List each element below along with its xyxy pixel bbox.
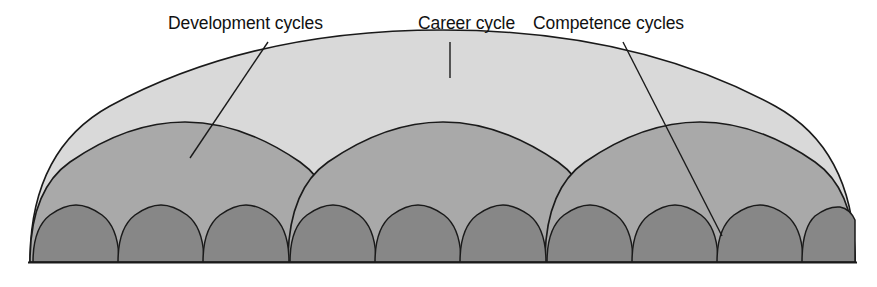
nested-arc-diagram [0,0,877,287]
label-competence-cycles: Competence cycles [533,13,684,34]
diagram-canvas: Development cycles Career cycle Competen… [0,0,877,287]
label-development-cycles: Development cycles [168,13,323,34]
label-career-cycle: Career cycle [418,13,515,34]
